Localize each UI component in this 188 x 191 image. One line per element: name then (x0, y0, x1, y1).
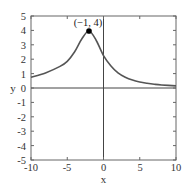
y-tick-label: 3 (21, 40, 26, 51)
y-tick-labels: 5 4 3 2 1 0 -1 -2 -3 -4 -5 (17, 11, 27, 166)
x-tick-label: 10 (171, 162, 182, 173)
y-tick-label: -3 (17, 126, 26, 137)
chart-svg: 5 4 3 2 1 0 -1 -2 -3 -4 -5 -10 -5 0 5 10… (0, 0, 188, 191)
y-tick-label: -2 (17, 112, 26, 123)
y-tick-label: 0 (21, 83, 26, 94)
x-tick-label: 0 (101, 162, 106, 173)
peak-marker (86, 28, 92, 34)
peak-annotation: (−1, 4) (74, 17, 103, 29)
y-tick-label: 5 (21, 11, 26, 22)
x-tick-label: 5 (137, 162, 142, 173)
x-axis-label: x (101, 173, 107, 185)
y-tick-label: -1 (17, 97, 26, 108)
y-axis-label: y (10, 82, 16, 94)
y-tick-label: 1 (21, 69, 26, 80)
x-tick-label: -5 (63, 162, 72, 173)
x-tick-label: -10 (24, 162, 38, 173)
y-tick-label: 2 (21, 54, 26, 65)
x-tick-labels: -10 -5 0 5 10 (24, 162, 181, 173)
y-tick-label: 4 (21, 25, 27, 36)
y-tick-label: -4 (17, 141, 26, 152)
